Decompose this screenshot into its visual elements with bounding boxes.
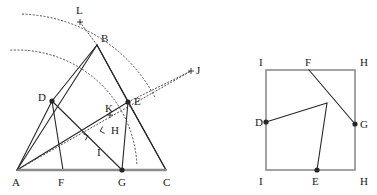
segment-B-E [97, 45, 128, 102]
left-label-c: C [163, 176, 170, 188]
right-label-e: E [312, 175, 319, 187]
left-point-d [49, 98, 54, 103]
left-point-g [119, 167, 124, 172]
left-label-h: H [111, 124, 119, 136]
segment-A-B [17, 45, 97, 170]
left-label-g: G [118, 176, 126, 188]
right-point-d [263, 119, 268, 124]
geometry-figure: ABCDEFGHIKLJIFHDGIEH [0, 0, 377, 195]
labels-layer: ABCDEFGHIKLJIFHDGIEH [12, 4, 368, 188]
segment-D-B [52, 45, 97, 101]
segment-E-C [128, 102, 166, 170]
segment-F-G [309, 70, 355, 124]
segment-P-E [317, 103, 327, 170]
left-label-i: I [97, 146, 101, 158]
right-diagram [263, 70, 357, 173]
right-label-g: G [360, 118, 368, 130]
right-label-i_top: I [259, 56, 263, 68]
left-point-e [125, 99, 130, 104]
right-label-f: F [305, 56, 311, 68]
right-point-g [352, 121, 357, 126]
right-label-i_bottom: I [259, 175, 263, 187]
left-marker-l [77, 19, 83, 25]
left-label-b: B [101, 32, 108, 44]
left-label-l: L [76, 4, 83, 16]
segment-D-F [52, 101, 63, 170]
segment-D-P [266, 103, 327, 122]
figure-root: ABCDEFGHIKLJIFHDGIEH [0, 0, 377, 195]
right-label-h_top: H [360, 56, 368, 68]
dotted-A-J [17, 71, 191, 170]
left-label-k: K [105, 102, 113, 114]
segment-E-G [122, 102, 128, 170]
left-marker-j [188, 68, 194, 74]
left-label-j: J [196, 64, 201, 76]
left-label-a: A [12, 176, 20, 188]
right-point-e [314, 167, 319, 172]
square-outline [266, 70, 355, 170]
right-label-h_bottom: H [360, 175, 368, 187]
left-label-e: E [134, 95, 141, 107]
left-label-f: F [58, 176, 64, 188]
right-angle-mark-H [100, 127, 107, 134]
left-label-d: D [38, 91, 46, 103]
dotted-L-B [80, 22, 97, 45]
right-label-d: D [255, 116, 263, 128]
